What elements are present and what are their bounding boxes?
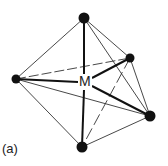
atom-back-right	[126, 54, 135, 63]
atom-left	[12, 75, 21, 84]
atom-bottom	[77, 142, 88, 153]
metal-center-label: M	[78, 74, 92, 88]
atom-front-right	[145, 111, 156, 122]
atom-top	[79, 13, 90, 24]
figure-caption: (a)	[2, 141, 18, 156]
